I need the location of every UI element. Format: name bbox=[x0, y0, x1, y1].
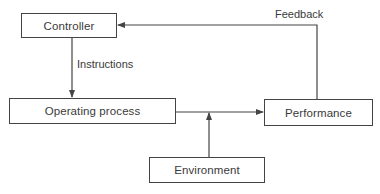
environment-label: Environment bbox=[174, 164, 240, 176]
operating-process-box: Operating process bbox=[9, 98, 176, 124]
controller-label: Controller bbox=[44, 20, 95, 32]
instructions-label: Instructions bbox=[77, 58, 133, 70]
performance-box: Performance bbox=[264, 99, 373, 126]
feedback-arrow bbox=[118, 25, 317, 99]
performance-label: Performance bbox=[285, 107, 352, 119]
controller-box: Controller bbox=[21, 13, 117, 38]
feedback-label: Feedback bbox=[275, 8, 323, 20]
environment-box: Environment bbox=[149, 157, 265, 183]
operating-process-label: Operating process bbox=[45, 105, 141, 117]
